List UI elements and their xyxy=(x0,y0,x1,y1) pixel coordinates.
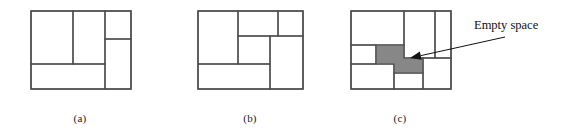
packing-figure: (a) (b) (c) Empty space xyxy=(0,0,572,134)
empty-space-arrow xyxy=(0,0,572,134)
arrow-head xyxy=(410,52,422,60)
arrow-shaft xyxy=(421,37,505,56)
